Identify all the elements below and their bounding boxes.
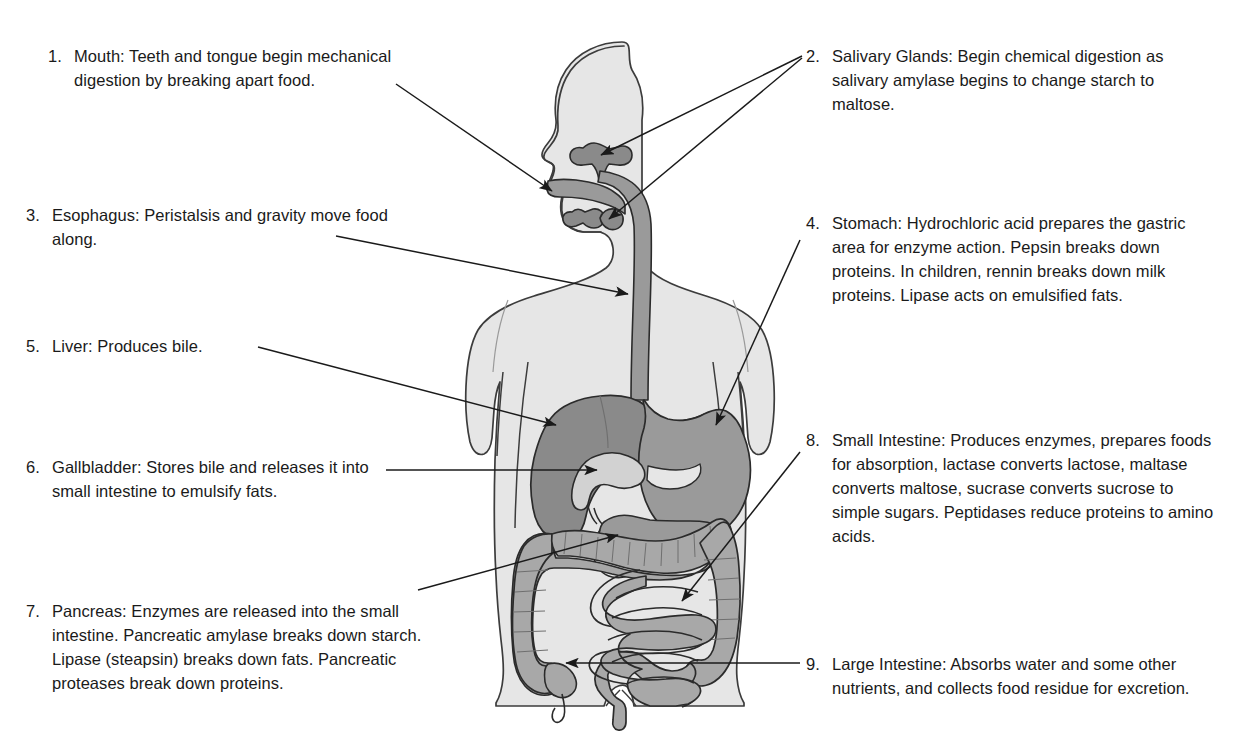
label-stomach: 4. Stomach: Hydrochloric acid prepares t… <box>806 211 1206 307</box>
label-mouth-text: Mouth: Teeth and tongue begin mechanical… <box>74 44 448 92</box>
label-mouth: 1. Mouth: Teeth and tongue begin mechani… <box>48 44 448 92</box>
label-esophagus-text: Esophagus: Peristalsis and gravity move … <box>52 203 426 251</box>
label-pancreas: 7. Pancreas: Enzymes are released into t… <box>26 599 431 695</box>
label-small-intestine: 8. Small Intestine: Produces enzymes, pr… <box>806 428 1214 548</box>
label-small-intestine-number: 8. <box>806 428 832 548</box>
label-gallbladder-text: Gallbladder: Stores bile and releases it… <box>52 455 406 503</box>
label-liver-number: 5. <box>26 334 52 358</box>
label-salivary-glands-text: Salivary Glands: Begin chemical digestio… <box>832 44 1202 116</box>
label-esophagus: 3. Esophagus: Peristalsis and gravity mo… <box>26 203 426 251</box>
label-large-intestine-text: Large Intestine: Absorbs water and some … <box>832 652 1206 700</box>
label-pancreas-text: Pancreas: Enzymes are released into the … <box>52 599 431 695</box>
label-gallbladder-number: 6. <box>26 455 52 503</box>
label-gallbladder: 6. Gallbladder: Stores bile and releases… <box>26 455 406 503</box>
label-salivary-glands-number: 2. <box>806 44 832 116</box>
stomach-organ <box>639 400 751 540</box>
label-liver: 5. Liver: Produces bile. <box>26 334 426 358</box>
label-mouth-number: 1. <box>48 44 74 92</box>
label-pancreas-number: 7. <box>26 599 52 695</box>
label-liver-text: Liver: Produces bile. <box>52 334 426 358</box>
label-large-intestine-number: 9. <box>806 652 832 700</box>
leader-mouth <box>396 84 552 191</box>
label-small-intestine-text: Small Intestine: Produces enzymes, prepa… <box>832 428 1214 548</box>
digestive-system-diagram: 1. Mouth: Teeth and tongue begin mechani… <box>0 0 1235 753</box>
label-stomach-number: 4. <box>806 211 832 307</box>
label-esophagus-number: 3. <box>26 203 52 251</box>
label-large-intestine: 9. Large Intestine: Absorbs water and so… <box>806 652 1206 700</box>
label-stomach-text: Stomach: Hydrochloric acid prepares the … <box>832 211 1206 307</box>
label-salivary-glands: 2. Salivary Glands: Begin chemical diges… <box>806 44 1202 116</box>
